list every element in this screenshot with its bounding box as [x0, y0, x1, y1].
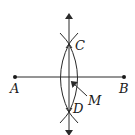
label-d: D [72, 101, 84, 116]
point-b [122, 75, 126, 79]
arc-mark-c-left [60, 33, 72, 48]
label-b: B [118, 81, 129, 96]
label-c: C [75, 38, 85, 53]
left-arc [61, 44, 70, 112]
point-a [13, 75, 17, 79]
label-a: A [9, 81, 19, 96]
arc-mark-d-left [60, 108, 72, 123]
label-m: M [87, 93, 102, 108]
construction-diagram: A B C D M [0, 0, 135, 135]
